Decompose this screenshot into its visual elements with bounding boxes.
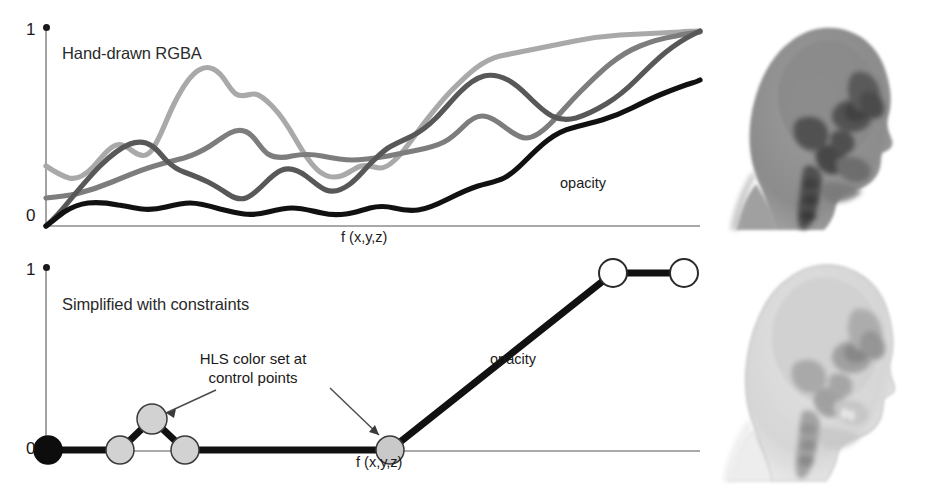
control-point-2[interactable] bbox=[106, 436, 134, 464]
head-render-opaque-svg bbox=[706, 0, 940, 251]
panel-title-hand-drawn: Hand-drawn RGBA bbox=[62, 44, 202, 63]
annotation-arrow-left bbox=[166, 390, 216, 418]
x-axis-label-top: f (x,y,z) bbox=[341, 229, 387, 245]
control-point-6[interactable] bbox=[599, 259, 627, 287]
control-point-3[interactable] bbox=[137, 404, 167, 434]
annotation-arrow-right bbox=[330, 388, 379, 435]
y-axis-max-label-top: 1 bbox=[26, 20, 35, 40]
volume-render-transparent bbox=[706, 251, 940, 502]
figure-root: Hand-drawn RGBA 1 0 f (x,y,z) opacity bbox=[0, 0, 940, 502]
control-point-7[interactable] bbox=[670, 259, 698, 287]
panel-title-simplified: Simplified with constraints bbox=[62, 295, 249, 314]
y-axis-max-tick-dot-bottom bbox=[43, 264, 50, 271]
opacity-curve-label-bottom: opacity bbox=[490, 351, 536, 367]
chart-panel-hand-drawn: Hand-drawn RGBA 1 0 f (x,y,z) opacity bbox=[0, 0, 706, 251]
volume-render-opaque bbox=[706, 0, 940, 251]
hls-color-annotation: HLS color set at control points bbox=[168, 349, 338, 387]
y-axis-max-tick-dot-top bbox=[43, 24, 50, 31]
x-axis-label-bottom: f (x,y,z) bbox=[356, 454, 402, 470]
control-point-origin[interactable] bbox=[34, 436, 62, 464]
y-axis-min-label-bottom: 0 bbox=[26, 439, 35, 459]
y-axis-min-label-top: 0 bbox=[26, 206, 35, 226]
head-render-transparent-svg bbox=[706, 251, 940, 502]
hand-drawn-rgba-plot bbox=[0, 0, 706, 251]
opacity-curve-label-top: opacity bbox=[560, 175, 606, 191]
y-axis-max-label-bottom: 1 bbox=[26, 260, 35, 280]
control-point-4[interactable] bbox=[171, 436, 199, 464]
chart-panel-simplified: Simplified with constraints 1 0 f (x,y,z… bbox=[0, 251, 706, 502]
simplified-constraints-plot bbox=[0, 251, 706, 502]
